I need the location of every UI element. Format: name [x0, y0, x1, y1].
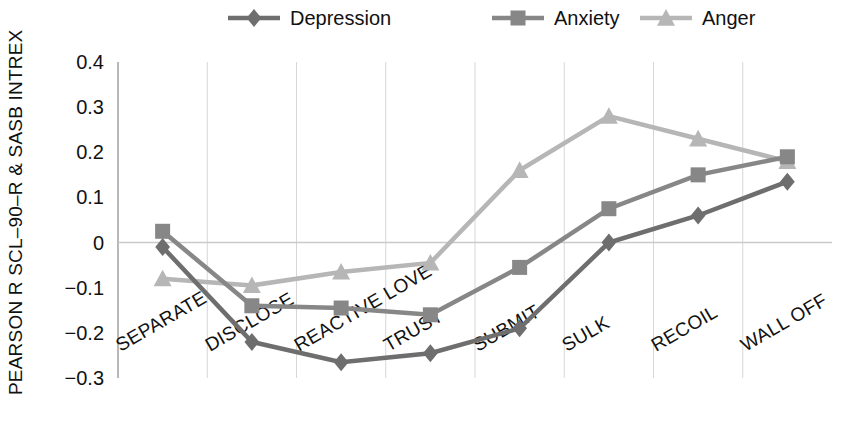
- x-axis-category-label: RECOIL: [648, 301, 721, 355]
- y-axis-tick-label: −0.1: [65, 277, 104, 299]
- y-axis-tick-label: 0.2: [76, 141, 104, 163]
- data-point-marker-square: [244, 298, 259, 313]
- y-axis-ticks: 0.40.30.20.10−0.1−0.2−0.3: [65, 51, 104, 389]
- line-chart: PEARSON R SCL–90–R & SASB INTREX Depress…: [0, 0, 842, 424]
- data-point-marker-square: [334, 301, 349, 316]
- legend-label-anger: Anger: [702, 7, 756, 29]
- data-point-marker-square: [423, 307, 438, 322]
- data-point-marker-square: [601, 201, 616, 216]
- data-point-marker-square: [511, 11, 526, 26]
- data-point-marker-diamond: [691, 206, 706, 224]
- chart-container: PEARSON R SCL–90–R & SASB INTREX Depress…: [0, 0, 842, 424]
- data-point-marker-square: [512, 260, 527, 275]
- data-point-marker-diamond: [247, 9, 262, 27]
- y-axis-tick-label: −0.2: [65, 322, 104, 344]
- data-point-marker-square: [691, 167, 706, 182]
- chart-legend: DepressionAnxietyAnger: [228, 7, 756, 29]
- data-point-marker-diamond: [334, 353, 349, 371]
- data-point-marker-triangle: [511, 161, 529, 178]
- x-axis-category-label: SEPARATE: [112, 287, 210, 356]
- data-point-marker-diamond: [423, 344, 438, 362]
- y-axis-tick-label: 0: [93, 232, 104, 254]
- x-axis-category-label: SULK: [558, 312, 613, 356]
- legend-label-depression: Depression: [290, 7, 391, 29]
- y-axis-tick-label: 0.4: [76, 51, 104, 73]
- y-axis-title: PEARSON R SCL–90–R & SASB INTREX: [5, 29, 26, 395]
- y-axis-tick-label: −0.3: [65, 367, 104, 389]
- data-point-marker-square: [780, 149, 795, 164]
- data-point-marker-square: [155, 224, 170, 239]
- x-axis-category-label: SUBMIT: [469, 300, 543, 355]
- y-axis-tick-label: 0.3: [76, 96, 104, 118]
- y-axis-tick-label: 0.1: [76, 186, 104, 208]
- legend-label-anxiety: Anxiety: [554, 7, 620, 29]
- x-axis-category-label: WALL OFF: [737, 289, 831, 355]
- y-axis-title-text: PEARSON R SCL–90–R & SASB INTREX: [5, 29, 26, 395]
- data-point-marker-diamond: [780, 173, 795, 191]
